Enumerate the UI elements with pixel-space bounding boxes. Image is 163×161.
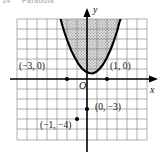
parabola-figure: (−3, 0) (1, 0) (0, −3) (−1, −4) O x y [0, 0, 163, 161]
origin-label: O [79, 81, 86, 91]
point-x-intercept-left [65, 77, 69, 81]
y-axis-label: y [93, 4, 97, 15]
y-axis-arrow [83, 8, 90, 17]
point-x-intercept-right [105, 77, 109, 81]
label-y-intercept: (0, −3) [95, 103, 121, 113]
label-vertex: (−1, −4) [40, 121, 71, 131]
label-x-intercept-left: (−3, 0) [19, 62, 45, 72]
x-axis-arrow [149, 75, 158, 82]
label-x-intercept-right: (1, 0) [110, 62, 131, 72]
point-vertex [75, 117, 79, 121]
point-y-intercept [85, 107, 89, 111]
x-axis-label: x [150, 84, 154, 95]
